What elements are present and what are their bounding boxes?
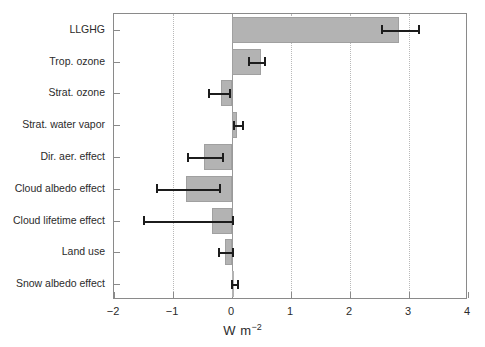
x-axis-tick-label-4: 4 (464, 305, 470, 317)
x-axis-tick-label-1: 1 (287, 305, 293, 317)
x-axis-title: W m−2 (0, 322, 485, 338)
y-axis-label-3: Strat. water vapor (22, 118, 105, 130)
x-axis-tick-label-2: 2 (346, 305, 352, 317)
y-axis-label-4: Dir. aer. effect (40, 150, 105, 162)
x-axis-tick-label--1: −1 (166, 305, 179, 317)
x-axis-tick-label-3: 3 (405, 305, 411, 317)
x-axis-tick-label-0: 0 (228, 305, 234, 317)
y-axis-label-0: LLGHG (69, 23, 105, 35)
y-axis-label-2: Strat. ozone (48, 86, 105, 98)
x-axis-unit-exponent: −2 (251, 322, 261, 332)
axis-labels-layer: LLGHGTrop. ozoneStrat. ozoneStrat. water… (0, 0, 485, 347)
y-axis-label-5: Cloud albedo effect (15, 182, 105, 194)
radiative-forcing-chart: LLGHGTrop. ozoneStrat. ozoneStrat. water… (0, 0, 485, 347)
y-axis-label-1: Trop. ozone (49, 55, 105, 67)
y-axis-label-6: Cloud lifetime effect (13, 214, 105, 226)
x-axis-tick-label--2: −2 (107, 305, 120, 317)
y-axis-label-7: Land use (62, 245, 105, 257)
y-axis-label-8: Snow albedo effect (16, 277, 105, 289)
x-axis-unit-base: W m (223, 323, 251, 338)
